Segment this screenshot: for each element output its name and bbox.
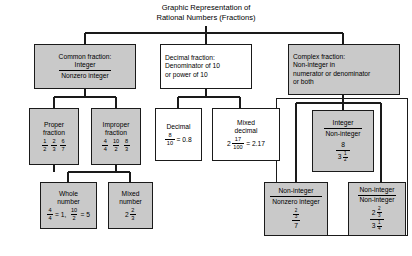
proper-fraction-line-1: Proper: [44, 121, 64, 129]
ion-den-den: 2: [343, 157, 349, 163]
nni-num-fraction: 2 3: [377, 207, 383, 218]
node-noninteger-over-nonzero-integer[interactable]: Non-integer Nonzero integer 2 3 7: [264, 182, 328, 236]
decimal-equals: = 0.8: [177, 136, 192, 144]
ion-den-label: Non-integer: [324, 128, 363, 138]
node-common-fraction[interactable]: Common fraction: Integer Nonzero integer: [34, 44, 136, 89]
improper-fraction-line-2: fraction: [105, 129, 127, 137]
common-fraction-expression: Integer Nonzero integer: [59, 61, 111, 80]
mixed-number-example: 2 2 3: [125, 208, 136, 221]
nni-ex-num: 2 2 3: [370, 207, 384, 219]
decimal-den: 10: [165, 139, 174, 146]
whole-number-example-1: 4 4 = 1,: [47, 208, 66, 221]
decimal-fraction-line-2: Denominator of 10: [165, 62, 220, 70]
complex-fraction-line-2: Non-integer in: [293, 61, 335, 69]
if2: 10 2: [111, 139, 120, 152]
mixed-decimal-equals: = 2.17: [246, 140, 265, 148]
improper-fraction-line-1: Improper: [103, 121, 130, 129]
noninteger-over-noninteger-example: 2 2 3 3 1 4: [370, 207, 384, 232]
pf1-den: 2: [42, 145, 48, 152]
decimal-label: Decimal: [166, 123, 190, 131]
node-whole-number[interactable]: Whole number 4 4 = 1, 10 2 = 5: [40, 182, 97, 229]
node-improper-fraction[interactable]: Improper fraction 4 4 10 2 8 3: [91, 108, 141, 165]
node-integer-over-noninteger[interactable]: Integer Non-integer 8 3 1 2: [312, 110, 374, 172]
nni-den-whole: 3: [372, 222, 376, 230]
nni-num-den: 3: [377, 212, 383, 218]
if2-den: 2: [113, 145, 119, 152]
complex-fraction-line-1: Complex fraction:: [293, 53, 345, 61]
mixed-decimal-fraction: 17 100: [232, 137, 244, 150]
noninteger-over-nonzero-example: 2 3 7: [291, 209, 301, 231]
pf3-den: 7: [60, 145, 66, 152]
nn-den-label: Nonzero integer: [270, 196, 322, 206]
node-complex-fraction[interactable]: Complex fraction: Non-integer in numerat…: [288, 44, 400, 95]
mixed-decimal-value: 2 17 100: [227, 137, 244, 150]
whole-number-line-1: Whole: [59, 190, 78, 198]
mn-fraction: 2 3: [130, 208, 136, 221]
ion-ex-den: 3 1 2: [336, 150, 350, 163]
decimal-fraction-line-1: Decimal fraction:: [165, 54, 215, 62]
common-fraction-numerator: Integer: [73, 61, 98, 70]
nn-ex-num-den: 3: [293, 214, 299, 220]
mixed-decimal-line-2: decimal: [234, 127, 257, 135]
wn2-den: 2: [71, 214, 77, 221]
complex-fraction-line-4: or both: [293, 78, 314, 86]
node-proper-fraction[interactable]: Proper fraction 1 2 2 3 6 7: [29, 108, 79, 165]
proper-fraction-example-2: 2 3: [51, 139, 57, 152]
wn1-fraction: 4 4: [47, 208, 53, 221]
nni-ex-num-mixed: 2 2 3: [372, 207, 382, 218]
wn2-fraction: 10 2: [69, 208, 78, 221]
whole-number-example-2: 10 2 = 5: [69, 208, 90, 221]
pf2-den: 3: [51, 145, 57, 152]
improper-fraction-examples: 4 4 10 2 8 3: [102, 139, 129, 152]
complex-fraction-line-3: numerator or denominator: [293, 70, 370, 78]
wn1-den: 4: [47, 214, 53, 221]
node-decimal[interactable]: Decimal 8 10 = 0.8: [155, 108, 202, 161]
nn-complex-fraction: 2 3 7: [291, 209, 301, 231]
ion-num-label: Integer: [331, 119, 356, 128]
nni-den-den: 4: [377, 226, 383, 232]
nni-num-whole: 2: [372, 209, 376, 217]
nni-ex-den: 3 1 4: [370, 219, 384, 232]
nni-complex-fraction: 2 2 3 3 1 4: [370, 207, 384, 232]
nni-ex-den-mixed: 3 1 4: [372, 221, 382, 232]
decimal-fraction-line-3: or power of 10: [165, 71, 208, 79]
common-fraction-header: Common fraction:: [59, 53, 112, 61]
noninteger-over-noninteger-label: Non-integer Non-integer: [358, 186, 397, 205]
if3: 8 3: [124, 139, 130, 152]
integer-over-noninteger-example: 8 3 1 2: [336, 141, 350, 163]
wn2-equals: = 5: [81, 211, 90, 219]
nn-num-label: Non-integer: [277, 187, 316, 196]
wn1-equals: = 1,: [55, 211, 66, 219]
if3-den: 3: [124, 145, 130, 152]
noninteger-over-nonzero-label: Non-integer Nonzero integer: [270, 187, 322, 206]
ion-complex-fraction: 8 3 1 2: [336, 141, 350, 163]
md-den: 100: [232, 143, 244, 150]
common-fraction-denominator: Nonzero integer: [59, 70, 111, 80]
proper-fraction-examples: 1 2 2 3 6 7: [42, 139, 66, 152]
nni-num-label: Non-integer: [358, 186, 397, 195]
decimal-fraction-value: 8 10: [165, 133, 174, 146]
ion-ex-num: 8: [339, 141, 347, 150]
node-mixed-decimal[interactable]: Mixed decimal 2 17 100 = 2.17: [212, 108, 280, 161]
mixed-number-line-2: number: [119, 198, 142, 206]
nni-den-label: Non-integer: [358, 195, 397, 205]
if1-den: 4: [102, 145, 108, 152]
proper-fraction-example-3: 6 7: [60, 139, 66, 152]
mn-whole: 2: [125, 211, 129, 219]
nn-ex-den: 7: [292, 220, 300, 230]
mixed-decimal-whole: 2: [227, 140, 231, 148]
node-noninteger-over-noninteger[interactable]: Non-integer Non-integer 2 2 3 3: [348, 182, 406, 236]
proper-fraction-example-1: 1 2: [42, 139, 48, 152]
node-decimal-fraction[interactable]: Decimal fraction: Denominator of 10 or p…: [160, 44, 252, 89]
nn-ex-num-fraction: 2 3: [293, 209, 299, 220]
proper-fraction-line-2: fraction: [43, 129, 65, 137]
mixed-decimal-line-1: Mixed: [237, 119, 255, 127]
mn-den: 3: [130, 214, 136, 221]
nni-den-fraction: 1 4: [377, 221, 383, 232]
node-mixed-number[interactable]: Mixed number 2 2 3: [108, 182, 153, 229]
ion-den-fraction: 1 2: [343, 152, 349, 163]
ion-ex-den-mixed: 3 1 2: [338, 152, 348, 163]
mixed-number-line-1: Mixed: [122, 190, 140, 198]
decimal-example: 8 10 = 0.8: [165, 133, 191, 146]
whole-number-examples: 4 4 = 1, 10 2 = 5: [47, 208, 90, 221]
